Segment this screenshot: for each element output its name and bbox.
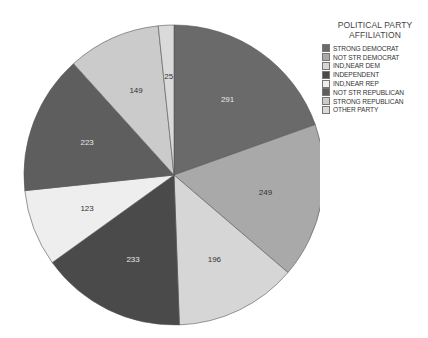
legend-label: NOT STR REPUBLICAN — [333, 89, 404, 96]
legend-list: STRONG DEMOCRAT NOT STR DEMOCRAT IND,NEA… — [322, 44, 428, 114]
legend-label: INDEPENDENT — [333, 71, 379, 78]
slice-value-label: 249 — [259, 188, 273, 197]
legend-item-other-party: OTHER PARTY — [322, 106, 428, 115]
legend-title-line1: POLITICAL PARTY — [322, 20, 428, 30]
legend-label: STRONG DEMOCRAT — [333, 45, 399, 52]
legend-item-not-str-democrat: NOT STR DEMOCRAT — [322, 53, 428, 62]
legend-swatch — [322, 88, 330, 96]
slice-value-label: 149 — [129, 86, 143, 95]
legend-swatch — [322, 44, 330, 52]
legend-swatch — [322, 106, 330, 114]
legend-label: OTHER PARTY — [333, 106, 378, 113]
legend-label: NOT STR DEMOCRAT — [333, 54, 399, 61]
legend-item-ind-near-rep: IND,NEAR REP — [322, 79, 428, 88]
legend-title: POLITICAL PARTY AFFILIATION — [322, 20, 428, 40]
legend-item-independent: INDEPENDENT — [322, 70, 428, 79]
slice-value-label: 123 — [80, 204, 94, 213]
legend-label: IND,NEAR REP — [333, 80, 379, 87]
slice-value-label: 233 — [126, 255, 140, 264]
legend-label: STRONG REPUBLICAN — [333, 98, 403, 105]
slice-value-label: 25 — [164, 72, 173, 81]
legend-swatch — [322, 53, 330, 61]
legend-swatch — [322, 80, 330, 88]
legend-swatch — [322, 71, 330, 79]
slice-value-label: 223 — [80, 138, 94, 147]
legend-title-line2: AFFILIATION — [322, 30, 428, 40]
pie-chart: 29124919623312322314925 — [0, 0, 320, 338]
legend-item-ind-near-dem: IND,NEAR DEM — [322, 62, 428, 71]
legend-item-strong-republican: STRONG REPUBLICAN — [322, 97, 428, 106]
legend: POLITICAL PARTY AFFILIATION STRONG DEMOC… — [322, 20, 428, 114]
legend-item-strong-democrat: STRONG DEMOCRAT — [322, 44, 428, 53]
legend-item-not-str-republican: NOT STR REPUBLICAN — [322, 88, 428, 97]
slice-value-label: 196 — [208, 255, 222, 264]
legend-swatch — [322, 97, 330, 105]
legend-label: IND,NEAR DEM — [333, 62, 380, 69]
slice-value-label: 291 — [221, 95, 235, 104]
legend-swatch — [322, 62, 330, 70]
